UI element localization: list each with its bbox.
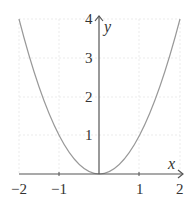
x-tick-label: 1	[136, 181, 144, 197]
x-tick-label: 2	[176, 181, 184, 197]
x-tick-label: −1	[51, 181, 67, 197]
x-tick-label: −2	[11, 181, 27, 197]
x-axis-label: x	[167, 155, 175, 172]
y-axis	[95, 16, 103, 174]
y-tick-label: 1	[85, 127, 93, 143]
y-tick-label: 4	[85, 11, 93, 27]
x-axis	[19, 170, 183, 178]
y-tick-label: 2	[85, 89, 93, 105]
y-tick-label: 3	[85, 50, 93, 66]
y-axis-label: y	[102, 18, 112, 36]
parabola-chart: −2 −1 1 2 1 2 3 4 x y	[0, 0, 192, 204]
